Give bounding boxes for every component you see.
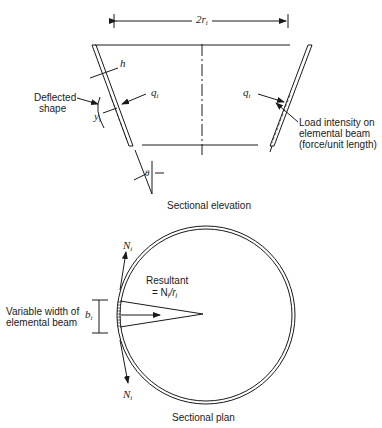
dimension-label-2ri: 2ri [194, 14, 210, 29]
force-label-bottom-ni: Ni [123, 389, 132, 404]
thickness-label-h: h [120, 58, 126, 69]
resultant-wedge [120, 301, 203, 327]
load-arrow-right [258, 94, 284, 102]
left-shell-beam [92, 45, 133, 146]
deflection-label-yi: yi [94, 111, 101, 126]
load-label-right-qi: qi [243, 87, 250, 102]
load-label-left-qi: qi [151, 87, 158, 102]
force-label-top-ni: Ni [123, 240, 132, 255]
angle-label-theta: θ [145, 168, 149, 179]
caption-sectional-plan: Sectional plan [172, 412, 235, 423]
load-arrow-left [122, 94, 146, 104]
resultant-formula: = Ni/ri [152, 287, 177, 301]
force-arrow-bottom [120, 340, 128, 383]
diagram-canvas [0, 0, 382, 428]
width-label-bi: bi [85, 309, 92, 324]
load-intensity-description: Load intensity on elemental beam (force/… [299, 117, 377, 150]
width-dimension-bi [92, 300, 108, 333]
caption-sectional-elevation: Sectional elevation [167, 200, 251, 211]
deflected-shape-label: Deflected shape [34, 92, 76, 114]
force-arrow-top [120, 252, 126, 290]
width-description: Variable width of elemental beam [6, 306, 79, 328]
resultant-label: Resultant [146, 275, 188, 286]
